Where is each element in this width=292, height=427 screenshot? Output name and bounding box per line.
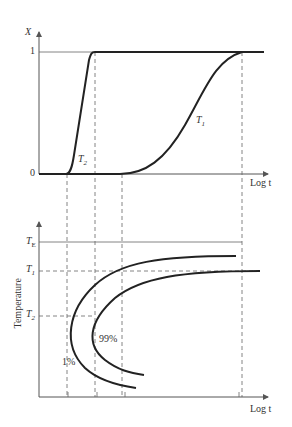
label-te: TE (26, 235, 36, 249)
label-1pct: 1% (62, 356, 75, 367)
tick-one: 1 (30, 45, 35, 56)
bottom-x-axis-label: Log t (250, 403, 271, 414)
curve-t2 (39, 52, 264, 174)
label-t1: T1 (196, 114, 205, 128)
tick-zero: 0 (30, 167, 35, 178)
x-ticks (68, 392, 239, 397)
top-y-axis-label: X (25, 26, 31, 37)
label-t2: T2 (78, 153, 87, 167)
label-99pct: 99% (99, 333, 117, 344)
top-x-axis-label: Log t (250, 177, 271, 188)
temperature-axis-label: Temperature (12, 279, 23, 329)
ttt-figure (0, 0, 292, 427)
curve-99pct (92, 271, 260, 375)
label-t2-temp: T2 (26, 308, 35, 322)
bottom-plot (39, 222, 268, 397)
label-t1-temp: T1 (26, 263, 35, 277)
curve-t1 (39, 52, 242, 174)
top-plot (39, 32, 268, 397)
